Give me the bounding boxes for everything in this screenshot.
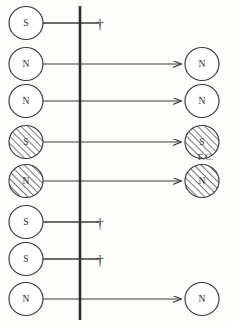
dagger-icon: †	[96, 252, 104, 268]
circle-label: N	[199, 294, 206, 304]
circle-node-left: S	[9, 206, 43, 239]
diagram-rows: †SNNNNSSNN†S†SNN	[9, 7, 219, 316]
circle-label: N	[199, 59, 206, 69]
circle-node-left: N	[9, 283, 43, 316]
circle-node-left: N	[9, 48, 43, 81]
circle-label: S	[23, 254, 28, 264]
circle-node-left: N	[9, 165, 43, 198]
circle-label: N	[23, 176, 30, 186]
circle-node-left: S	[9, 7, 43, 40]
diagram-row: NN	[9, 48, 219, 81]
diagram-row: †S	[9, 7, 104, 40]
circle-label: N	[23, 59, 30, 69]
circle-node-right: N	[185, 283, 219, 316]
diagram-row: NN	[9, 165, 219, 198]
circle-label: S	[199, 137, 204, 147]
dagger-icon: †	[96, 215, 104, 231]
circle-label: N	[199, 96, 206, 106]
circle-label: S	[23, 217, 28, 227]
diagram-row: †S	[9, 243, 104, 276]
diagram-canvas: †SNNNNSSNN†S†SNN F.C.	[0, 0, 234, 326]
circle-node-left: N	[9, 85, 43, 118]
circle-label: S	[23, 137, 28, 147]
circle-node-right: N	[185, 85, 219, 118]
circle-label: S	[23, 18, 28, 28]
diagram-row: SS	[9, 126, 219, 159]
circle-node-left: S	[9, 126, 43, 159]
circle-node-right: N	[185, 48, 219, 81]
diagram-row: NN	[9, 85, 219, 118]
circle-label: N	[23, 294, 30, 304]
diagram-svg: †SNNNNSSNN†S†SNN	[0, 0, 234, 326]
diagram-row: NN	[9, 283, 219, 316]
diagram-row: †S	[9, 206, 104, 239]
circle-label: N	[23, 96, 30, 106]
circle-node-left: S	[9, 243, 43, 276]
fc-annotation-label: F.C.	[198, 152, 214, 162]
circle-label: N	[199, 176, 206, 186]
circle-node-right: N	[185, 165, 219, 198]
dagger-icon: †	[96, 16, 104, 32]
